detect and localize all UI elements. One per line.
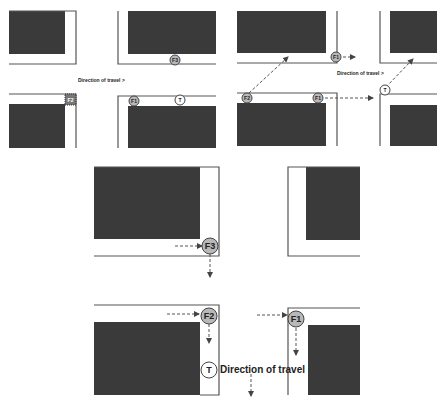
svg-text:F1: F1 [333,54,339,60]
svg-text:F2: F2 [68,97,74,103]
panel-top-right: F1 F2 F1 T Direction of travel > [237,11,437,146]
marker-f1: F1 [288,311,304,327]
marker-f1-top: F1 [331,52,341,62]
marker-f1: F1 [313,93,323,103]
marker-f2: F2 [201,308,217,324]
direction-label: Direction of travel > [337,70,384,76]
svg-text:T: T [178,97,181,103]
marker-t: T [175,95,185,105]
building-block [390,11,437,53]
intersection-diagram: F3 F2 F1 T Direction of travel > [0,0,437,402]
panel-bottom: F3 F2 F1 T Direction of travel [94,167,360,396]
building-block [9,11,65,54]
building-block [237,11,326,53]
building-block [94,167,200,239]
building-block [308,325,360,395]
svg-text:F2: F2 [244,95,250,101]
building-block [94,322,200,395]
direction-label: Direction of travel [220,364,305,375]
svg-text:F2: F2 [204,311,215,321]
building-block [9,104,65,148]
direction-label: Direction of travel > [78,77,125,83]
building-block [128,106,216,148]
panel-top-left: F3 F2 F1 T Direction of travel > [9,11,216,148]
svg-text:F1: F1 [315,95,321,101]
svg-text:T: T [206,365,212,375]
marker-f2: F2 [65,94,76,105]
marker-f1: F1 [129,96,139,106]
building-block [390,105,437,146]
svg-text:F3: F3 [172,57,178,63]
marker-f3: F3 [170,55,180,65]
svg-text:F3: F3 [205,241,216,251]
marker-t: T [380,85,390,95]
marker-f3: F3 [202,238,218,254]
svg-text:F1: F1 [131,98,137,104]
marker-f2: F2 [242,93,252,103]
svg-text:F1: F1 [291,314,302,324]
building-block [306,167,360,240]
svg-text:T: T [383,87,386,93]
building-block [128,11,216,54]
marker-t: T [201,362,217,378]
building-block [237,103,326,146]
